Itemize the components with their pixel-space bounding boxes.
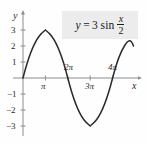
x-tick-label-4pi: 4π — [108, 62, 117, 72]
equation-denominator: 2 — [118, 25, 123, 36]
y-tick-label-1: 1 — [12, 57, 17, 67]
y-tick-label-neg1: −1 — [7, 89, 17, 99]
equation-amplitude: 3 — [92, 19, 100, 31]
x-axis-label: x — [132, 80, 136, 91]
equation-function-name: sin — [100, 19, 117, 31]
y-tick-label-neg2: −2 — [6, 105, 16, 115]
equation-lhs: y — [76, 19, 83, 31]
x-tick-label-3pi: 3π — [85, 81, 94, 91]
equation-numerator: x — [119, 14, 124, 25]
equation-annotation: y = 3 sin x 2 — [62, 11, 138, 39]
y-tick-label-2: 2 — [11, 41, 16, 51]
y-tick-label-neg3: −3 — [6, 121, 16, 131]
equation-fraction: x 2 — [117, 14, 124, 36]
sine-graph-figure: y = 3 sin x 2 x y π 2π 3π 4π 3 2 1 −1 −2… — [0, 0, 147, 144]
x-tick-label-2pi: 2π — [64, 62, 73, 72]
x-tick-label-pi: π — [41, 81, 46, 91]
y-axis-label: y — [13, 10, 17, 21]
equation-equals-sign: = — [82, 19, 92, 31]
y-tick-label-3: 3 — [11, 25, 16, 35]
